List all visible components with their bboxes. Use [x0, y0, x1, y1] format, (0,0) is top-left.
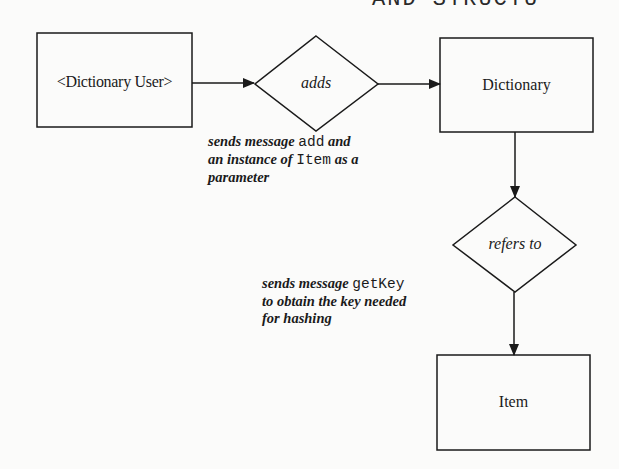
refers-to-label: refers to [465, 235, 565, 253]
caption-text: and [324, 133, 350, 149]
caption-text: for hashing [262, 310, 406, 327]
caption-text: as a [331, 151, 358, 167]
caption-text: sends message [262, 275, 352, 291]
caption-text: parameter [208, 169, 358, 186]
caption-text: to obtain the key needed [262, 293, 406, 310]
caption-text: sends message [208, 133, 298, 149]
caption-text: an instance of [208, 151, 296, 167]
dictionary-label: Dictionary [440, 76, 593, 94]
adds-label: adds [276, 74, 356, 92]
code-item: Item [296, 152, 331, 168]
dictionary-user-label: <Dictionary User> [37, 73, 192, 91]
item-label: Item [437, 393, 590, 411]
refers-caption: sends message getKey to obtain the key n… [262, 275, 406, 327]
adds-caption: sends message add and an instance of Ite… [208, 133, 358, 186]
code-add: add [298, 134, 324, 150]
code-getkey: getKey [352, 276, 404, 292]
